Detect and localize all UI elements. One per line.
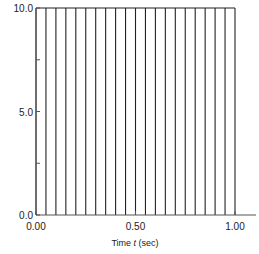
x-tick-label: 0.50 [126,221,146,232]
y-tick-label: 5.0 [19,107,33,118]
y-tick-label: 0.0 [19,210,33,221]
impulse-train-chart: 0.05.010.0 0.000.501.00 Time t (sec) [0,0,259,254]
y-axis: 0.05.010.0 [14,3,40,221]
x-tick-label: 1.00 [225,221,245,232]
plot-area [36,8,235,215]
x-tick-label: 0.00 [26,221,46,232]
y-tick-label: 10.0 [14,3,34,14]
x-axis-label: Time t (sec) [111,238,158,248]
x-axis: 0.000.501.00 [26,211,256,232]
